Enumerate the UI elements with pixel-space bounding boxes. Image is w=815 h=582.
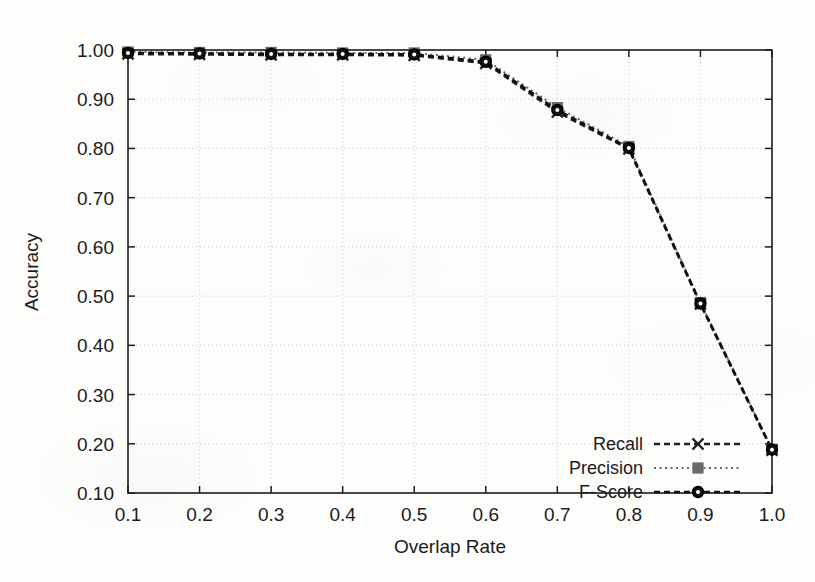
vertical-gridlines: [200, 50, 701, 493]
x-tick-label: 0.6: [473, 504, 499, 525]
legend-sample-f-score: [654, 487, 742, 498]
circle-marker-hole: [555, 108, 559, 112]
y-tick-label: 0.70: [77, 188, 114, 209]
x-axis-tick-labels: 0.10.20.30.40.50.60.70.80.91.0: [115, 504, 785, 525]
chart-legend: RecallPrecisionF-Score: [569, 434, 742, 502]
y-tick-label: 0.20: [77, 434, 114, 455]
horizontal-gridlines: [128, 99, 772, 444]
chart-figure: 0.100.200.300.400.500.600.700.800.901.00…: [0, 0, 815, 582]
circle-marker-hole: [269, 52, 273, 56]
x-tick-label: 0.9: [687, 504, 713, 525]
circle-marker-hole: [770, 448, 774, 452]
x-axis-title: Overlap Rate: [394, 536, 506, 557]
circle-marker-hole: [627, 146, 631, 150]
x-tick-label: 0.7: [544, 504, 570, 525]
circle-marker-hole: [698, 301, 702, 305]
y-tick-label: 1.00: [77, 40, 114, 61]
circle-marker-hole: [198, 51, 202, 55]
legend-sample-precision: [654, 463, 742, 473]
x-tick-label: 1.0: [759, 504, 785, 525]
series-f-score: [123, 48, 778, 456]
circle-marker-hole: [341, 52, 345, 56]
y-tick-label: 0.50: [77, 286, 114, 307]
x-tick-label: 0.5: [401, 504, 427, 525]
series-precision: [123, 47, 777, 454]
x-tick-label: 0.8: [616, 504, 642, 525]
y-tick-label: 0.80: [77, 138, 114, 159]
x-tick-label: 0.4: [329, 504, 356, 525]
y-tick-label: 0.90: [77, 89, 114, 110]
circle-marker-hole: [696, 490, 700, 494]
accuracy-vs-overlap-rate-chart: 0.100.200.300.400.500.600.700.800.901.00…: [0, 0, 815, 582]
x-tick-label: 0.1: [115, 504, 141, 525]
circle-marker-hole: [126, 51, 130, 55]
series-line: [128, 54, 772, 450]
x-tick-label: 0.2: [186, 504, 212, 525]
y-tick-label: 0.60: [77, 237, 114, 258]
circle-marker-hole: [484, 60, 488, 64]
square-marker: [693, 463, 703, 473]
x-tick-label: 0.3: [258, 504, 284, 525]
circle-marker-hole: [412, 52, 416, 56]
y-tick-label: 0.30: [77, 385, 114, 406]
y-tick-label: 0.40: [77, 335, 114, 356]
y-axis-title: Accuracy: [21, 232, 42, 311]
series-line: [128, 53, 772, 450]
y-axis-tick-labels: 0.100.200.300.400.500.600.700.800.901.00: [77, 40, 114, 504]
plot-frame: [128, 50, 772, 493]
legend-sample-recall: [654, 439, 742, 450]
series-line: [128, 52, 772, 449]
legend-label-f-score: F-Score: [579, 482, 643, 502]
axis-ticks: [128, 50, 772, 493]
legend-label-recall: Recall: [593, 434, 643, 454]
y-tick-label: 0.10: [77, 483, 114, 504]
legend-label-precision: Precision: [569, 458, 643, 478]
